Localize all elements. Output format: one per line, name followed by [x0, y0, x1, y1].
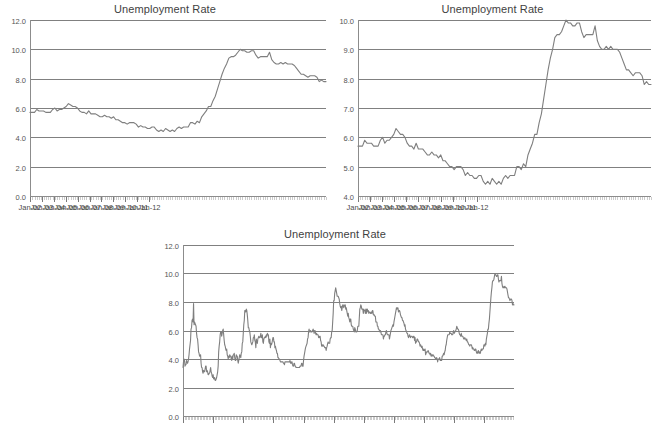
y-axis-tick-label: 12.0	[11, 17, 26, 26]
y-axis-tick-label: 0.0	[16, 193, 26, 202]
series-line	[358, 20, 651, 184]
y-axis-tick-label: 10.0	[339, 17, 354, 26]
chart-plot-area: 0.02.04.06.08.010.012.0Jan-02Jan-03Jan-0…	[0, 14, 330, 218]
chart-svg: 0.02.04.06.08.010.012.0Jan-02Jan-03Jan-0…	[0, 14, 330, 218]
y-axis-tick-label: 4.0	[16, 134, 26, 143]
series-line	[30, 49, 326, 131]
y-axis-tick-label: 4.0	[169, 356, 179, 365]
series-line	[183, 274, 514, 381]
chart-plot-area: 4.05.06.07.08.09.010.0Jan-02Jan-03Jan-04…	[330, 14, 655, 218]
y-axis-tick-label: 5.0	[344, 164, 354, 173]
chart-top-left: Unemployment Rate 0.02.04.06.08.010.012.…	[0, 0, 330, 218]
y-axis-tick-label: 10.0	[164, 270, 179, 279]
y-axis-tick-label: 8.0	[169, 299, 179, 308]
y-axis-tick-label: 6.0	[344, 134, 354, 143]
y-axis-tick-label: 7.0	[344, 105, 354, 114]
y-axis-tick-label: 0.0	[169, 413, 179, 422]
chart-top-right: Unemployment Rate 4.05.06.07.08.09.010.0…	[330, 0, 655, 218]
y-axis-tick-label: 8.0	[344, 76, 354, 85]
y-axis-tick-label: 12.0	[164, 242, 179, 251]
y-axis-tick-label: 2.0	[16, 164, 26, 173]
y-axis-tick-label: 6.0	[169, 328, 179, 337]
y-axis-tick-label: 9.0	[344, 46, 354, 55]
x-axis-tick-label: Jan-12	[466, 203, 489, 212]
chart-svg: 0.02.04.06.08.010.012.0	[150, 239, 520, 430]
y-axis-tick-label: 4.0	[344, 193, 354, 202]
y-axis-tick-label: 6.0	[16, 105, 26, 114]
x-axis-tick-label: Jan-12	[138, 203, 161, 212]
chart-svg: 4.05.06.07.08.09.010.0Jan-02Jan-03Jan-04…	[330, 14, 655, 218]
chart-bottom: Unemployment Rate 0.02.04.06.08.010.012.…	[150, 226, 520, 430]
y-axis-tick-label: 2.0	[169, 385, 179, 394]
y-axis-tick-label: 10.0	[11, 46, 26, 55]
chart-plot-area: 0.02.04.06.08.010.012.0	[150, 239, 520, 430]
y-axis-tick-label: 8.0	[16, 76, 26, 85]
